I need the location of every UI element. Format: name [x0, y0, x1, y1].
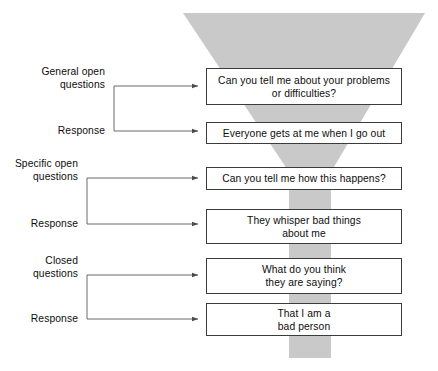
message-box-response-3: That I am abad person — [206, 303, 402, 336]
message-text: They whisper bad thingsabout me — [241, 214, 367, 240]
message-text: Everyone gets at me when I go out — [217, 127, 391, 140]
label-response-2: Response — [0, 218, 78, 231]
label-response-3: Response — [0, 313, 78, 326]
message-text: What do you thinkthey are saying? — [256, 263, 352, 289]
message-text: Can you tell me how this happens? — [216, 172, 392, 185]
message-text: Can you tell me about your problemsor di… — [212, 74, 396, 100]
message-text: That I am abad person — [271, 307, 336, 333]
message-box-response-1: Everyone gets at me when I go out — [206, 122, 402, 144]
message-box-response-2: They whisper bad thingsabout me — [206, 209, 402, 244]
label-response-1: Response — [10, 125, 105, 138]
funnelling-questions-diagram: General open questions Response Specific… — [0, 0, 438, 371]
label-general-open-questions: General open questions — [10, 66, 105, 91]
label-closed-questions: Closed questions — [0, 255, 78, 280]
message-box-closed-question: What do you thinkthey are saying? — [206, 258, 402, 294]
message-box-specific-open-question: Can you tell me how this happens? — [206, 167, 402, 190]
message-box-general-open-question: Can you tell me about your problemsor di… — [206, 68, 402, 105]
label-specific-open-questions: Specific open questions — [0, 158, 78, 183]
